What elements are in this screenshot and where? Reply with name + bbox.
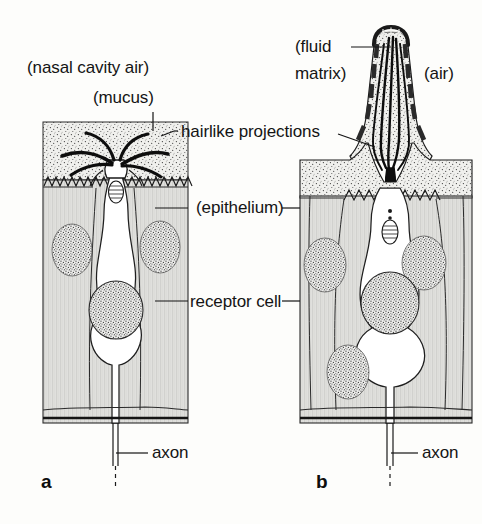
- label-receptor-cell: receptor cell: [190, 292, 281, 311]
- label-hairlike-projections: hairlike projections: [181, 122, 320, 141]
- label-axon-a: axon: [152, 443, 188, 462]
- label-mucus: (mucus): [93, 88, 154, 107]
- receptor-cell-nucleus-b: [361, 272, 419, 334]
- label-fluid-matrix-line2: matrix): [295, 64, 346, 83]
- receptor-cell-nucleus-a: [89, 281, 143, 339]
- label-axon-b: axon: [422, 443, 458, 462]
- olfactory-receptor-diagram: [0, 0, 482, 524]
- panel-letter-a: a: [41, 471, 52, 493]
- label-nasal-cavity-air: (nasal cavity air): [27, 58, 149, 77]
- panel-letter-b: b: [316, 471, 328, 493]
- axon-a: [113, 423, 118, 486]
- label-epithelium: (epithelium): [196, 198, 284, 217]
- label-air: (air): [424, 64, 454, 83]
- label-fluid-matrix-line1: (fluid: [295, 37, 331, 56]
- basal-body-a: [109, 181, 124, 203]
- axon-b: [387, 423, 393, 486]
